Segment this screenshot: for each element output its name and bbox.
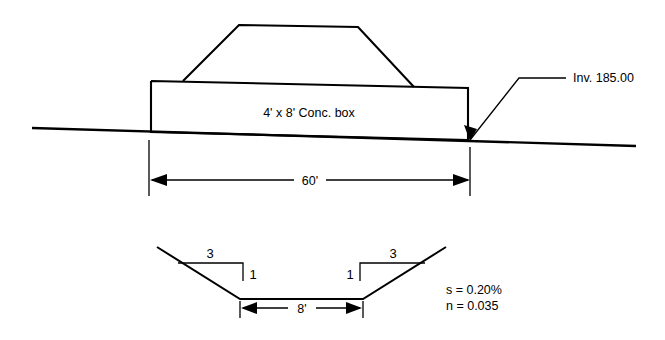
concrete-box-label: 4' x 8' Conc. box [263,106,355,120]
bottom-width-arrowhead-right [346,302,362,314]
culvert-diagram-canvas: 4' x 8' Conc. box Inv. 185.00 60' 3 1 3 … [0,0,665,340]
span-arrowhead-left [150,174,167,186]
channel-slope-parameter-label: s = 0.20% [446,283,502,297]
span-dimension-label: 60' [302,174,318,188]
embankment-outline [183,25,414,87]
bottom-width-dimension-label: 8' [297,302,306,316]
right-slope-rise-label: 1 [346,267,353,282]
left-slope-run-label: 3 [206,246,213,261]
culvert-diagram: 4' x 8' Conc. box Inv. 185.00 60' 3 1 3 … [0,0,665,340]
bottom-width-arrowhead-left [241,302,257,314]
channel-section-outline [157,247,446,299]
invert-leader-line [470,78,566,140]
span-arrowhead-right [453,174,470,186]
left-slope-rise-label: 1 [249,267,256,282]
right-slope-run-label: 3 [389,246,396,261]
invert-elevation-label: Inv. 185.00 [573,71,634,85]
channel-roughness-parameter-label: n = 0.035 [446,299,499,313]
